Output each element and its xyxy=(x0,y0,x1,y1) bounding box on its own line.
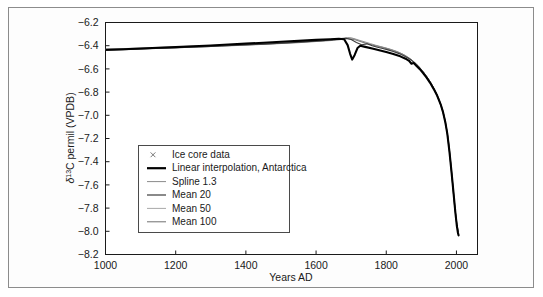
y-axis-title-group: δ13C permil (VPDB) xyxy=(64,92,76,183)
legend-label: Mean 100 xyxy=(172,216,217,227)
y-tick-label: −6.8 xyxy=(78,86,99,98)
x-tick-label: 2000 xyxy=(445,259,469,271)
x-tick-label: 1000 xyxy=(94,259,118,271)
y-tick-label: −7.6 xyxy=(78,179,99,191)
y-axis-ticks: −6.2−6.4−6.6−6.8−7.0−7.2−7.4−7.6−7.8−8.0… xyxy=(78,16,110,260)
y-tick-label: −6.6 xyxy=(78,63,99,75)
y-axis-title-rest: C permil (VPDB) xyxy=(64,92,76,170)
x-tick-label: 1200 xyxy=(164,259,188,271)
legend-label: Mean 20 xyxy=(172,189,211,200)
x-tick-label: 1600 xyxy=(304,259,328,271)
y-tick-label: −7.0 xyxy=(78,109,99,121)
x-tick-label: 1400 xyxy=(234,259,258,271)
legend-label: Spline 1.3 xyxy=(172,176,217,187)
legend-label: Linear interpolation, Antarctica xyxy=(172,162,307,173)
y-tick-label: −7.8 xyxy=(78,202,99,214)
x-axis-title: Years AD xyxy=(269,271,313,283)
y-tick-label: −7.4 xyxy=(78,155,99,167)
figure-container: −6.2−6.4−6.6−6.8−7.0−7.2−7.4−7.6−7.8−8.0… xyxy=(0,0,543,297)
y-axis-title: δ13C permil (VPDB) xyxy=(64,92,76,183)
legend-label: Ice core data xyxy=(172,149,230,160)
y-tick-label: −7.2 xyxy=(78,132,99,144)
y-tick-label: −6.4 xyxy=(78,39,99,51)
chart-legend: Ice core dataLinear interpolation, Antar… xyxy=(139,146,307,233)
y-tick-label: −6.2 xyxy=(78,16,99,28)
legend-label: Mean 50 xyxy=(172,203,211,214)
chart-svg: −6.2−6.4−6.6−6.8−7.0−7.2−7.4−7.6−7.8−8.0… xyxy=(0,0,543,297)
x-tick-label: 1800 xyxy=(375,259,399,271)
y-axis-superscript: 13 xyxy=(65,170,72,178)
y-tick-label: −8.0 xyxy=(78,225,99,237)
